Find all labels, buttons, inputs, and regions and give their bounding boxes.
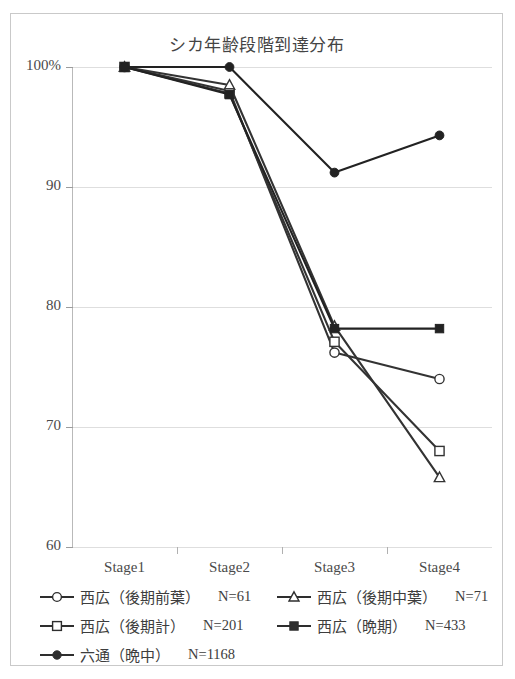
legend-item[interactable]: 西広（後期前葉）N=61 — [39, 586, 251, 607]
data-point — [435, 446, 444, 455]
chart-legend: 西広（後期前葉）N=61西広（後期中葉）N=71西広（後期計）N=201西広（晩… — [31, 586, 501, 673]
series-line — [125, 67, 440, 379]
legend-item[interactable]: 西広（後期中葉）N=71 — [276, 586, 488, 607]
open-circle-icon — [39, 589, 75, 605]
legend-sample-size: N=201 — [203, 617, 243, 634]
legend-sample-size: N=1168 — [188, 646, 235, 663]
series-1 — [120, 62, 444, 383]
data-point — [435, 324, 443, 332]
data-point — [435, 131, 444, 140]
series-3 — [120, 62, 444, 455]
legend-sample-size: N=433 — [425, 617, 465, 634]
legend-label: 六通（晩中） — [80, 644, 170, 665]
open-square-icon — [39, 618, 75, 634]
data-series-layer — [11, 14, 504, 667]
legend-row: 西広（後期計）N=201西広（晩期）N=433 — [31, 615, 501, 644]
data-point — [120, 63, 129, 72]
data-point — [330, 348, 339, 357]
legend-item[interactable]: 西広（晩期）N=433 — [276, 615, 465, 636]
series-2 — [119, 62, 444, 482]
filled-square-icon — [276, 618, 312, 634]
legend-label: 西広（後期前葉） — [80, 586, 200, 607]
legend-sample-size: N=61 — [218, 588, 251, 605]
legend-row: 西広（後期前葉）N=61西広（後期中葉）N=71 — [31, 586, 501, 615]
legend-row: 六通（晩中）N=1168 — [31, 644, 501, 673]
series-5 — [120, 63, 444, 177]
data-point — [330, 337, 339, 346]
data-point — [225, 63, 234, 72]
series-line — [125, 67, 440, 451]
legend-sample-size: N=71 — [455, 588, 488, 605]
legend-label: 西広（晩期） — [317, 615, 407, 636]
legend-item[interactable]: 六通（晩中）N=1168 — [39, 644, 235, 665]
data-point — [435, 374, 444, 383]
series-line — [125, 67, 440, 329]
filled-diamond-icon — [39, 647, 75, 663]
series-4 — [120, 63, 443, 333]
series-line — [125, 67, 440, 173]
open-triangle-icon — [276, 589, 312, 605]
legend-label: 西広（後期計） — [80, 615, 185, 636]
legend-item[interactable]: 西広（後期計）N=201 — [39, 615, 243, 636]
legend-label: 西広（後期中葉） — [317, 586, 437, 607]
data-point — [330, 324, 338, 332]
data-point — [225, 90, 233, 98]
series-line — [125, 67, 440, 477]
chart-frame: シカ年齢段階到達分布 100%90807060 Stage1Stage2Stag… — [10, 13, 503, 666]
data-point — [330, 168, 339, 177]
